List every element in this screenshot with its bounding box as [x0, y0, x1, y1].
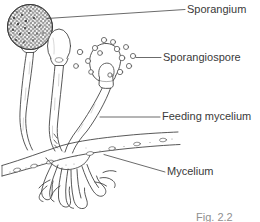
leader-mycelium — [104, 155, 165, 173]
figure-caption: Fig. 2.2 — [196, 211, 233, 222]
leader-sporangium — [47, 10, 185, 19]
label-sporangium: Sporangium — [187, 4, 246, 15]
young-sporangium — [48, 29, 71, 66]
horizontal-mycelium — [2, 132, 180, 176]
rhizoids — [39, 164, 116, 209]
label-mycelium: Mycelium — [167, 166, 213, 177]
figure-container: Sporangium Sporangiospore Feeding myceli… — [0, 0, 260, 222]
sporangiophore-centre — [49, 66, 63, 152]
leader-lines — [47, 10, 185, 173]
label-feeding-mycelium: Feeding mycelium — [162, 111, 251, 122]
label-sporangiospore: Sporangiospore — [163, 52, 241, 63]
sporangiophore-left — [20, 53, 34, 151]
